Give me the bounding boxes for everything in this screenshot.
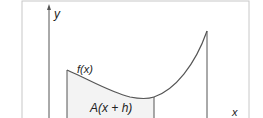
function-label: f(x) bbox=[77, 63, 93, 75]
area-label: A(x + h) bbox=[89, 101, 132, 115]
y-axis-arrow-icon bbox=[47, 4, 51, 10]
diagram-canvas: y f(x) A(x + h) x bbox=[0, 0, 263, 118]
y-axis-label: y bbox=[53, 7, 61, 21]
x-axis-label: x bbox=[231, 106, 238, 118]
diagram-figure: y f(x) A(x + h) x bbox=[0, 0, 263, 118]
